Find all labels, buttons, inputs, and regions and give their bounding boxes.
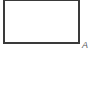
corner-label-a: A [82, 41, 88, 50]
rectangle-shape [3, 0, 80, 44]
